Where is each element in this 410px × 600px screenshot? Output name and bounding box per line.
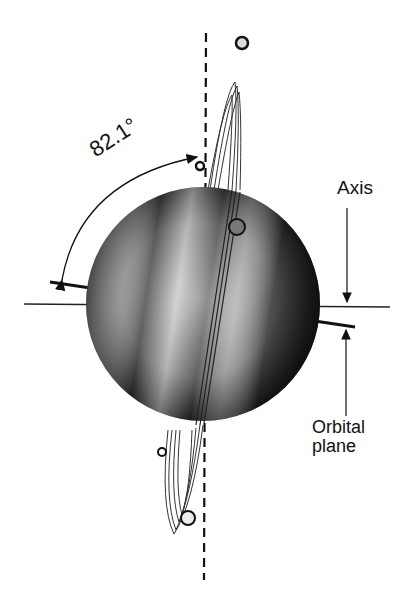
- axis-label: Axis: [337, 178, 373, 198]
- moon-lower-left: [158, 448, 166, 456]
- uranus-diagram: [0, 0, 410, 600]
- moon-bottom: [181, 511, 195, 525]
- planet-band-shading: [86, 187, 320, 421]
- moon-on-planet: [229, 219, 245, 235]
- orbital-plane-label-line1: Orbital: [312, 418, 365, 437]
- orbital-plane-label: Orbital plane: [312, 418, 365, 456]
- moon-top-right: [236, 37, 248, 49]
- orbital-plane-label-line2: plane: [312, 437, 365, 456]
- moon-upper-small: [196, 162, 204, 170]
